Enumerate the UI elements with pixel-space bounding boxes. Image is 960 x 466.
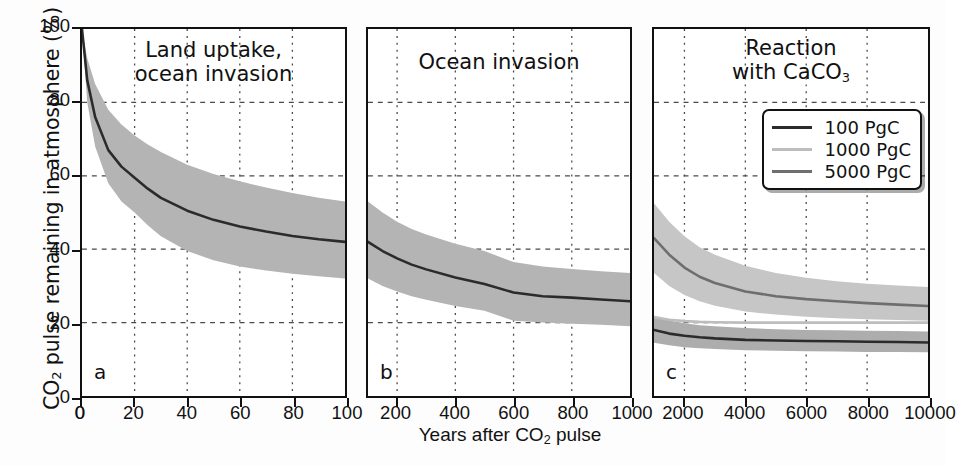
legend: 100 PgC1000 PgC5000 PgC bbox=[762, 109, 922, 190]
y-tick-label: 60 bbox=[8, 163, 70, 185]
panel-b: Ocean invasion b bbox=[366, 27, 632, 398]
legend-label: 5000 PgC bbox=[825, 161, 911, 182]
legend-item: 5000 PgC bbox=[772, 160, 911, 182]
legend-line-swatch bbox=[772, 126, 812, 129]
x-tick-label: 0 bbox=[35, 402, 125, 424]
y-tick-label: 80 bbox=[8, 89, 70, 111]
legend-item: 1000 PgC bbox=[772, 138, 911, 160]
panel-b-letter: b bbox=[380, 360, 393, 384]
legend-label: 100 PgC bbox=[825, 117, 900, 138]
y-axis-label: CO2 pulse remaining in atmosphere (%) bbox=[40, 0, 65, 428]
panel-c-plot bbox=[654, 29, 928, 396]
panel-a-letter: a bbox=[94, 360, 106, 384]
panel-c-letter: c bbox=[666, 360, 677, 384]
panel-a: Land uptake, ocean invasion a bbox=[80, 27, 347, 398]
panel-a-plot bbox=[82, 29, 345, 396]
y-tick-label: 40 bbox=[8, 238, 70, 260]
y-tick-label: 20 bbox=[8, 312, 70, 334]
x-tick-label: 10000 bbox=[885, 402, 960, 424]
panel-b-plot bbox=[368, 29, 630, 396]
x-axis-label: Years after CO2 pulse bbox=[300, 424, 720, 447]
legend-line-swatch bbox=[772, 170, 812, 173]
legend-line-swatch bbox=[772, 148, 812, 151]
panel-c: Reaction with CaCO3 100 PgC1000 PgC5000 … bbox=[652, 27, 930, 398]
y-tick-label: 100 bbox=[8, 15, 70, 37]
legend-item: 100 PgC bbox=[772, 116, 911, 138]
legend-label: 1000 PgC bbox=[825, 139, 911, 160]
